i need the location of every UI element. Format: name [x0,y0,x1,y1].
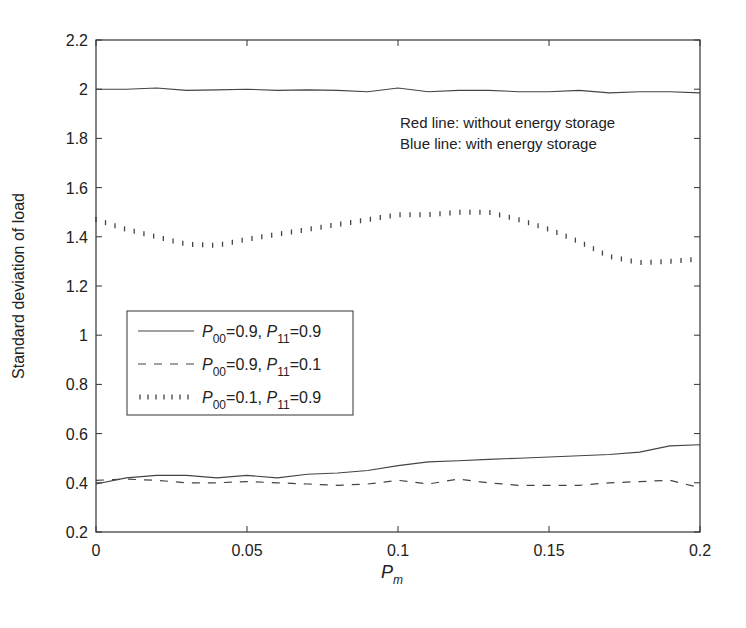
y-tick-label: 0.6 [66,426,88,443]
x-tick-label: 0.1 [387,542,409,559]
series-line-2-solid [96,445,700,484]
series-line-1-dotted [96,212,700,262]
plot-lines [96,88,700,488]
x-axis-label-sub: m [393,573,403,587]
annotation-blue-line: Blue line: with energy storage [400,135,597,152]
y-tick-label: 0.2 [66,524,88,541]
y-axis-label: Standard deviation of load [10,193,27,379]
series-line-3-dashed [96,479,700,488]
legend: P00=0.9, P11=0.9P00=0.9, P11=0.1P00=0.1,… [127,311,353,415]
y-tick-label: 1.6 [66,180,88,197]
y-tick-label: 0.8 [66,376,88,393]
x-tick-label: 0.05 [231,542,262,559]
x-tick-label: 0.15 [533,542,564,559]
annotation-red-line: Red line: without energy storage [400,114,615,131]
y-tick-label: 2 [79,81,88,98]
y-tick-label: 0.4 [66,475,88,492]
x-axis-label: Pm [381,562,403,587]
x-tick-label: 0 [92,542,101,559]
axis-tick-labels: 00.050.10.150.20.20.40.60.811.21.41.61.8… [66,32,711,559]
y-tick-label: 1.4 [66,229,88,246]
x-axis-label-main: P [381,562,393,582]
y-tick-label: 1.2 [66,278,88,295]
y-tick-label: 2.2 [66,32,88,49]
y-tick-label: 1.8 [66,130,88,147]
line-chart: 00.050.10.150.20.20.40.60.811.21.41.61.8… [0,0,746,628]
x-tick-label: 0.2 [689,542,711,559]
y-tick-label: 1 [79,327,88,344]
series-line-0-solid [96,88,700,93]
